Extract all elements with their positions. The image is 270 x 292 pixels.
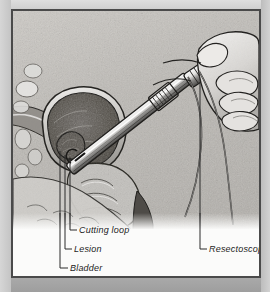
figure-margin-left	[0, 0, 11, 292]
figure-frame: Cutting loop Lesion Bladder Resectoscope	[11, 9, 261, 278]
caption-fade	[13, 213, 259, 229]
fingers	[216, 71, 258, 131]
figure-margin-right	[261, 0, 270, 292]
figure-margin-top	[0, 0, 270, 9]
label-lesion: Lesion	[74, 244, 102, 254]
label-bladder: Bladder	[70, 263, 102, 273]
label-cutting-loop: Cutting loop	[79, 225, 129, 235]
illustration-canvas: Cutting loop Lesion Bladder Resectoscope	[13, 11, 259, 276]
label-resectoscope: Resectoscope	[209, 244, 261, 254]
figure-margin-bottom	[0, 278, 270, 292]
figure-container: Cutting loop Lesion Bladder Resectoscope	[0, 0, 270, 292]
